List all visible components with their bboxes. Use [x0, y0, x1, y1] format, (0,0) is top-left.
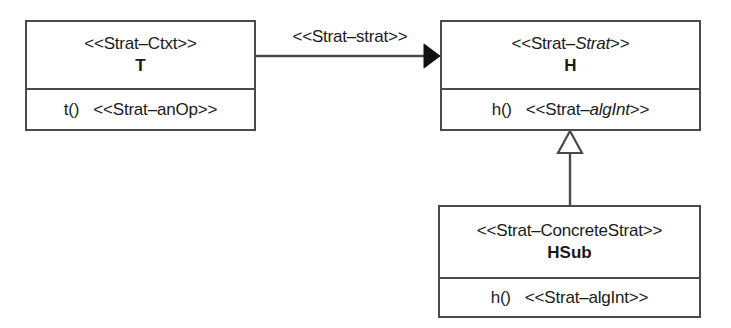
class-box-context[interactable]: <<Strat–Ctxt>> T t()<<Strat–anOp>> — [25, 20, 256, 131]
uml-class-diagram-canvas: <<Strat–Ctxt>> T t()<<Strat–anOp>> <<Str… — [0, 0, 731, 328]
operation-row-concrete-strategy: h()<<Strat–algInt>> — [491, 287, 649, 309]
class-stereotype-context: <<Strat–Ctxt>> — [84, 33, 197, 55]
class-operations-context: t()<<Strat–anOp>> — [27, 90, 254, 129]
class-header-strategy: <<Strat–Strat>> H — [442, 22, 699, 90]
generalization-arrowhead-icon — [558, 131, 582, 153]
operation-row-context: t()<<Strat–anOp>> — [64, 99, 217, 121]
class-header-context: <<Strat–Ctxt>> T — [27, 22, 254, 90]
class-name-strategy: H — [564, 55, 576, 76]
operation-stereotype-strategy: <<Strat–algInt>> — [526, 100, 649, 119]
class-operations-concrete-strategy: h()<<Strat–algInt>> — [440, 279, 699, 316]
class-box-concrete-strategy[interactable]: <<Strat–ConcreteStrat>> HSub h()<<Strat–… — [438, 205, 701, 318]
class-name-concrete-strategy: HSub — [547, 242, 591, 263]
class-operations-strategy: h()<<Strat–algInt>> — [442, 90, 699, 129]
class-box-strategy[interactable]: <<Strat–Strat>> H h()<<Strat–algInt>> — [440, 20, 701, 131]
class-header-concrete-strategy: <<Strat–ConcreteStrat>> HSub — [440, 207, 699, 279]
class-stereotype-strategy: <<Strat–Strat>> — [512, 33, 630, 55]
class-name-context: T — [135, 55, 145, 76]
operation-signature-concrete-strategy: h() — [491, 288, 511, 307]
association-label: <<Strat–strat>> — [262, 26, 438, 48]
operation-signature-strategy: h() — [492, 100, 512, 119]
operation-row-strategy: h()<<Strat–algInt>> — [492, 99, 650, 121]
class-stereotype-concrete-strategy: <<Strat–ConcreteStrat>> — [477, 220, 662, 242]
operation-stereotype-context: <<Strat–anOp>> — [93, 100, 217, 119]
operation-stereotype-concrete-strategy: <<Strat–algInt>> — [525, 288, 648, 307]
operation-signature-context: t() — [64, 100, 79, 119]
